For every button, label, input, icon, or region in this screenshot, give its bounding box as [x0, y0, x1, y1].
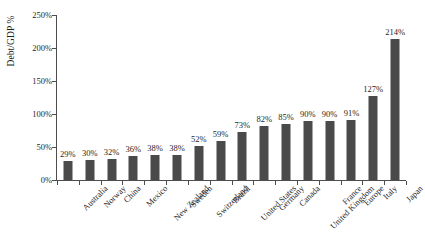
x-axis-tick-mark — [232, 181, 233, 185]
x-axis-category-label: Brazil — [231, 184, 252, 205]
bar-value-label: 90% — [300, 110, 316, 119]
bar[interactable] — [151, 155, 160, 180]
y-axis-tick-label: 150% — [22, 77, 52, 86]
bar-value-label: 30% — [82, 149, 98, 158]
bar-value-label: 82% — [256, 115, 272, 124]
bar-value-label: 52% — [191, 135, 207, 144]
bar-value-label: 38% — [169, 144, 185, 153]
bar[interactable] — [63, 161, 72, 180]
bar-group[interactable]: 90% — [319, 15, 341, 180]
bar-group[interactable]: 59% — [210, 15, 232, 180]
bar[interactable] — [369, 96, 378, 180]
bar[interactable] — [216, 141, 225, 180]
plot-area: 29%30%32%36%38%38%52%59%73%82%85%90%90%9… — [57, 15, 406, 180]
bar-value-label: 59% — [213, 130, 229, 139]
y-axis-tick-mark — [52, 114, 56, 115]
y-axis-tick-labels: 0%50%100%150%200%250% — [22, 0, 52, 248]
bar-group[interactable]: 36% — [122, 15, 144, 180]
bar-group[interactable]: 90% — [297, 15, 319, 180]
bar[interactable] — [107, 159, 116, 180]
bar-value-label: 29% — [60, 150, 76, 159]
bar-group[interactable]: 127% — [362, 15, 384, 180]
x-axis-tick-mark — [188, 181, 189, 185]
x-axis-tick-mark — [297, 181, 298, 185]
x-axis-tick-mark — [253, 181, 254, 185]
x-axis-tick-mark — [275, 181, 276, 185]
x-axis-tick-mark — [122, 181, 123, 185]
bar-value-label: 214% — [385, 28, 405, 37]
x-axis-category-label: Japan — [405, 184, 425, 204]
y-axis-tick-label: 0% — [22, 176, 52, 185]
y-axis-tick-mark — [52, 147, 56, 148]
bar-value-label: 127% — [363, 85, 383, 94]
x-axis-tick-mark — [79, 181, 80, 185]
bar[interactable] — [172, 155, 181, 180]
bar-value-label: 36% — [126, 145, 142, 154]
x-axis-tick-mark — [362, 181, 363, 185]
bar-group[interactable]: 214% — [384, 15, 406, 180]
bar[interactable] — [194, 146, 203, 180]
y-axis-title: Debt/GDP % — [6, 0, 16, 86]
x-axis-tick-mark — [406, 181, 407, 185]
bar[interactable] — [325, 121, 334, 180]
y-axis-tick-mark — [52, 48, 56, 49]
bar[interactable] — [85, 160, 94, 180]
bar-value-label: 73% — [235, 121, 251, 130]
x-axis-tick-mark — [341, 181, 342, 185]
y-axis-tick-label: 50% — [22, 143, 52, 152]
bar-value-label: 38% — [147, 144, 163, 153]
bar[interactable] — [303, 121, 312, 180]
bar[interactable] — [129, 156, 138, 180]
bar-group[interactable]: 73% — [232, 15, 254, 180]
bar-value-label: 85% — [278, 113, 294, 122]
x-axis-category-label: Mexico — [145, 184, 170, 209]
x-axis-category-labels: AustraliaNorwayChinaMexicoNew ZealandSwe… — [57, 184, 406, 248]
y-axis-tick-label: 100% — [22, 110, 52, 119]
x-axis-category-label: Sweden — [189, 184, 214, 209]
bar-value-label: 91% — [344, 109, 360, 118]
x-axis-tick-mark — [101, 181, 102, 185]
bar[interactable] — [282, 124, 291, 180]
y-axis-tick-label: 200% — [22, 44, 52, 53]
y-axis-tick-mark — [52, 180, 56, 181]
bar-group[interactable]: 52% — [188, 15, 210, 180]
y-axis-tick-mark — [52, 15, 56, 16]
bar-value-label: 90% — [322, 110, 338, 119]
bar[interactable] — [391, 39, 400, 180]
y-axis-tick-mark — [52, 81, 56, 82]
bar-group[interactable]: 82% — [253, 15, 275, 180]
bar-group[interactable]: 30% — [79, 15, 101, 180]
bar-group[interactable]: 91% — [341, 15, 363, 180]
bar[interactable] — [347, 120, 356, 180]
bar[interactable] — [238, 132, 247, 180]
x-axis-tick-mark — [166, 181, 167, 185]
x-axis-tick-mark — [384, 181, 385, 185]
bar-value-label: 32% — [104, 148, 120, 157]
bar-group[interactable]: 85% — [275, 15, 297, 180]
y-axis-tick-label: 250% — [22, 11, 52, 20]
x-axis-tick-mark — [57, 181, 58, 185]
bar-group[interactable]: 38% — [166, 15, 188, 180]
x-axis-tick-mark — [144, 181, 145, 185]
bar-group[interactable]: 32% — [101, 15, 123, 180]
x-axis-category-label: Italy — [382, 184, 399, 201]
x-axis-tick-mark — [319, 181, 320, 185]
bar[interactable] — [260, 126, 269, 180]
x-axis-tick-mark — [210, 181, 211, 185]
bar-group[interactable]: 38% — [144, 15, 166, 180]
bar-group[interactable]: 29% — [57, 15, 79, 180]
